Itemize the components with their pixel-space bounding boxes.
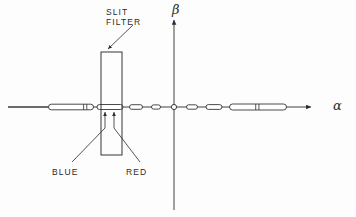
alpha-axis-label: α	[333, 99, 342, 114]
beta-axis-label: β	[172, 3, 180, 18]
spectral-marker-m5	[187, 105, 198, 109]
leader-line-red	[114, 128, 140, 162]
blue-label: BLUE	[52, 168, 79, 178]
spectral-marker-m7	[230, 104, 287, 110]
spectral-marker-m3	[130, 105, 143, 110]
annotation-leaders-group	[72, 25, 140, 162]
slit-filter-group	[101, 52, 122, 155]
spectral-marker-m6	[206, 105, 222, 110]
marker-body-m4	[152, 105, 161, 109]
spectral-marker-m1	[49, 104, 94, 110]
diagram-vector-layer	[0, 0, 356, 217]
marker-body-m7	[230, 104, 287, 110]
marker-body-m6	[206, 105, 222, 110]
spectral-marker-m4	[152, 105, 161, 109]
slit-filter-rectangle	[101, 52, 122, 155]
leader-line-slit-filter	[108, 25, 133, 49]
slit-filter-label: SLIT FILTER	[106, 8, 141, 27]
axes-group	[8, 20, 311, 210]
origin-marker	[171, 104, 176, 109]
marker-body-m3	[130, 105, 143, 110]
diagram-canvas: β α SLIT FILTER BLUE RED	[0, 0, 356, 217]
marker-body-m5	[187, 105, 198, 109]
leader-line-blue	[72, 128, 105, 162]
red-label: RED	[126, 168, 147, 178]
